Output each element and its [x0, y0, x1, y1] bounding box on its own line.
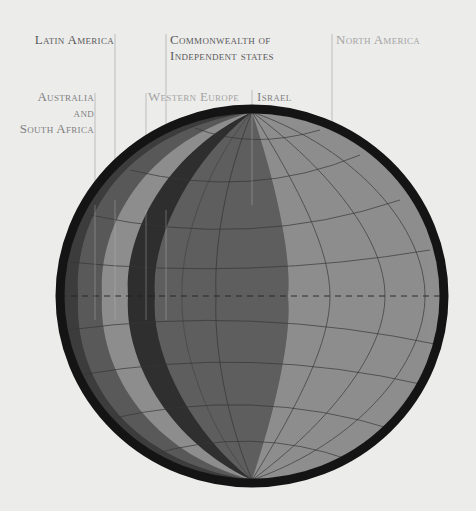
diagram-stage: Latin America Commonwealth of Independen… [0, 0, 476, 511]
label-australia-line3: South Africa [20, 121, 94, 137]
label-australia-line1: Australia [20, 89, 94, 105]
label-israel: Israel [257, 89, 292, 105]
label-latin-america: Latin America [35, 32, 114, 48]
label-australia-south-africa: Australia and South Africa [20, 89, 94, 137]
globe-segments [0, 0, 476, 511]
label-cis-line1: Commonwealth of [170, 32, 274, 48]
label-australia-line2: and [20, 105, 94, 121]
globe-graphic [0, 0, 476, 511]
label-north-america: North America [336, 32, 420, 48]
label-western-europe: Western Europe [148, 89, 239, 105]
label-cis: Commonwealth of Independent states [170, 32, 274, 64]
label-cis-line2: Independent states [170, 48, 274, 64]
